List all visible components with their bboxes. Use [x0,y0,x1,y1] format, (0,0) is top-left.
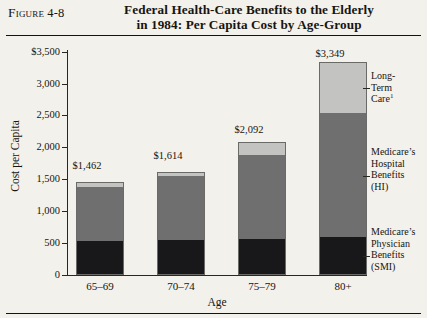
legend-hi-line-3: Benefits [371,169,415,181]
bar-segment-smi-70-74 [157,240,205,275]
legend-ltc-care-text: Care [371,93,390,104]
legend-ltc-line-3: Care1 [371,93,395,105]
bar-segment-smi-65-69 [76,241,124,275]
y-tick-500 [62,243,67,244]
y-tick-3500 [62,52,67,53]
y-tick-0 [62,275,67,276]
x-tick-label-75-79: 75–79 [227,280,297,292]
x-tick-label-65-69: 65–69 [65,280,135,292]
bar-segment-ltc-75-79 [238,142,286,155]
legend-label-hospital-benefits: Medicare’s Hospital Benefits (HI) [371,146,415,192]
bar-segment-hi-75-79 [238,155,286,239]
bar-value-label-80-plus: $3,349 [295,48,365,59]
legend-smi-line-3: Benefits [371,249,415,261]
y-tick-2000 [62,147,67,148]
bar-value-label-65-69: $1,462 [52,160,122,171]
chart-plot-area: $3,500 3,000 2,500 2,000 1,500 1,000 500… [0,0,427,318]
legend-leader-ltc [363,88,370,89]
legend-label-long-term-care: Long- Term Care1 [371,70,395,105]
legend-smi-line-1: Medicare’s [371,226,415,238]
bar-segment-smi-75-79 [238,239,286,275]
x-tick-label-80-plus: 80+ [308,280,378,292]
bar-segment-hi-65-69 [76,187,124,241]
legend-hi-line-2: Hospital [371,158,415,170]
y-tick-1000 [62,211,67,212]
legend-smi-line-2: Physician [371,238,415,250]
legend-label-physician-benefits: Medicare’s Physician Benefits (SMI) [371,226,415,272]
y-tick-label-3500: $3,500 [2,47,60,57]
y-axis-title: Cost per Capita [9,71,21,241]
legend-ltc-footnote-marker: 1 [390,92,394,100]
y-tick-2500 [62,115,67,116]
bar-segment-hi-70-74 [157,176,205,240]
bar-value-label-75-79: $2,092 [214,124,284,135]
legend-smi-line-4: (SMI) [371,261,415,273]
legend-leader-smi [363,256,370,257]
bar-segment-hi-80-plus [319,113,367,237]
figure-page: Figure 4-8 Federal Health-Care Benefits … [0,0,427,318]
y-tick-3000 [62,84,67,85]
legend-ltc-line-1: Long- [371,70,395,82]
x-axis-line [67,275,367,276]
bar-segment-ltc-80-plus [319,62,367,113]
y-tick-label-0: 0 [2,270,60,280]
bar-segment-smi-80-plus [319,237,367,275]
x-tick-label-70-74: 70–74 [146,280,216,292]
legend-hi-line-4: (HI) [371,181,415,193]
legend-leader-hi [363,176,370,177]
bar-value-label-70-74: $1,614 [133,150,203,161]
legend-hi-line-1: Medicare’s [371,146,415,158]
y-tick-1500 [62,179,67,180]
x-axis-title: Age [67,296,367,308]
